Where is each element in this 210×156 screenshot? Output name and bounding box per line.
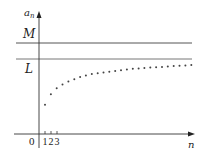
sequence-point bbox=[97, 72, 99, 74]
sequence-point bbox=[173, 65, 175, 67]
x-axis-arrow-icon bbox=[188, 132, 195, 137]
sequence-point bbox=[62, 84, 64, 86]
sequence-point bbox=[67, 81, 69, 83]
sequence-point bbox=[184, 64, 186, 66]
sequence-point bbox=[50, 93, 52, 95]
tick-label-3: 3 bbox=[55, 136, 60, 147]
sequence-point bbox=[167, 66, 169, 68]
sequence-point bbox=[138, 67, 140, 69]
sequence-point bbox=[91, 73, 93, 75]
sequence-point bbox=[149, 67, 151, 69]
tick-label-2: 2 bbox=[49, 136, 54, 147]
limit-label: L bbox=[24, 62, 33, 76]
sequence-point bbox=[103, 72, 105, 74]
sequence-point bbox=[132, 68, 134, 70]
origin-label: 0 bbox=[29, 135, 35, 147]
sequence-point bbox=[85, 75, 87, 77]
sequence-point bbox=[161, 66, 163, 68]
y-axis-arrow-icon bbox=[37, 11, 42, 18]
sequence-point bbox=[73, 78, 75, 80]
sequence-point bbox=[120, 69, 122, 71]
sequence-point bbox=[79, 76, 81, 78]
sequence-point bbox=[108, 71, 110, 73]
sequence-point bbox=[44, 104, 46, 106]
sequence-point bbox=[56, 87, 58, 89]
sequence-point bbox=[126, 69, 128, 71]
sequence-points bbox=[44, 64, 192, 106]
sequence-point bbox=[179, 65, 181, 67]
tick-label-1: 1 bbox=[43, 136, 48, 147]
upper-bound-label: M bbox=[22, 27, 36, 41]
sequence-point bbox=[114, 70, 116, 72]
y-axis-label: an bbox=[24, 7, 35, 20]
sequence-point bbox=[190, 64, 192, 66]
sequence-point bbox=[155, 66, 157, 68]
sequence-plot: an M L 0 1 2 3 n bbox=[0, 0, 210, 156]
x-axis-label: n bbox=[188, 139, 194, 150]
sequence-point bbox=[143, 67, 145, 69]
